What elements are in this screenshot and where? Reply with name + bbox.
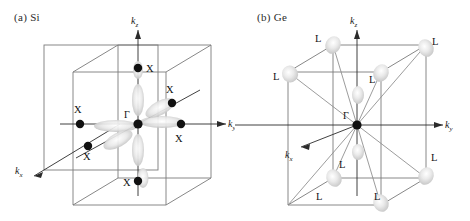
si-x-label-backright: X — [166, 84, 174, 95]
ge-l-label-1: L — [315, 33, 321, 44]
si-x-label-right: X — [175, 133, 183, 144]
ge-gamma-point — [352, 120, 361, 129]
si-x-point-left — [76, 120, 84, 128]
panel-si: (a) Si — [0, 0, 235, 221]
ge-l-ellipsoid-9 — [352, 86, 364, 104]
si-x-point-backright — [168, 99, 176, 107]
si-x-label-left: X — [74, 104, 82, 115]
ge-axis-kx-label: kx — [285, 149, 293, 163]
figure-container: (a) Si — [0, 0, 470, 221]
ge-l-label-5: L — [316, 191, 322, 202]
panel-ge-drawing: kz ky kx — [235, 0, 470, 221]
ge-l-label-3: L — [369, 74, 375, 85]
si-x-label-frontleft: X — [83, 151, 91, 162]
si-x-label-bottom: X — [123, 177, 131, 188]
ge-bz-svg: kz ky kx — [235, 0, 470, 221]
ge-l-ellipsoid-5 — [323, 167, 344, 190]
ge-l-label-7: L — [374, 191, 380, 202]
ge-axis-kx — [301, 125, 357, 150]
ge-axis-kz-label: kz — [350, 15, 357, 29]
si-axis-kx-label: kx — [15, 165, 23, 179]
ge-l-ellipsoid-8 — [352, 144, 364, 160]
ge-l-label-8: L — [339, 159, 345, 170]
si-gamma-point — [133, 119, 142, 128]
si-x-point-bottom — [134, 177, 142, 185]
ge-l-ellipsoid-1 — [322, 34, 343, 57]
ge-axis-ky-label: ky — [445, 119, 453, 133]
ge-l-label-6: L — [431, 152, 437, 163]
ge-gamma-label: Γ — [343, 110, 349, 121]
si-axis-ky-label: ky — [228, 118, 235, 132]
si-axis-kz-label: kz — [131, 15, 138, 29]
si-x-point-right — [177, 120, 185, 128]
ge-axis-ky — [235, 122, 443, 128]
ge-axis-kz — [354, 30, 360, 196]
ge-l-label-4: L — [273, 71, 279, 82]
panel-ge: (b) Ge — [235, 0, 470, 221]
panel-si-drawing: kx ky kz — [0, 0, 235, 221]
si-x-label-top: X — [146, 63, 154, 74]
si-x-point-frontleft — [84, 142, 92, 150]
si-bz-svg: kx ky kz — [0, 0, 235, 221]
ge-l-ellipsoid-6 — [415, 165, 436, 188]
ge-l-label-2: L — [432, 36, 438, 47]
si-x-point-top — [134, 64, 142, 72]
si-gamma-label: Γ — [124, 109, 130, 120]
